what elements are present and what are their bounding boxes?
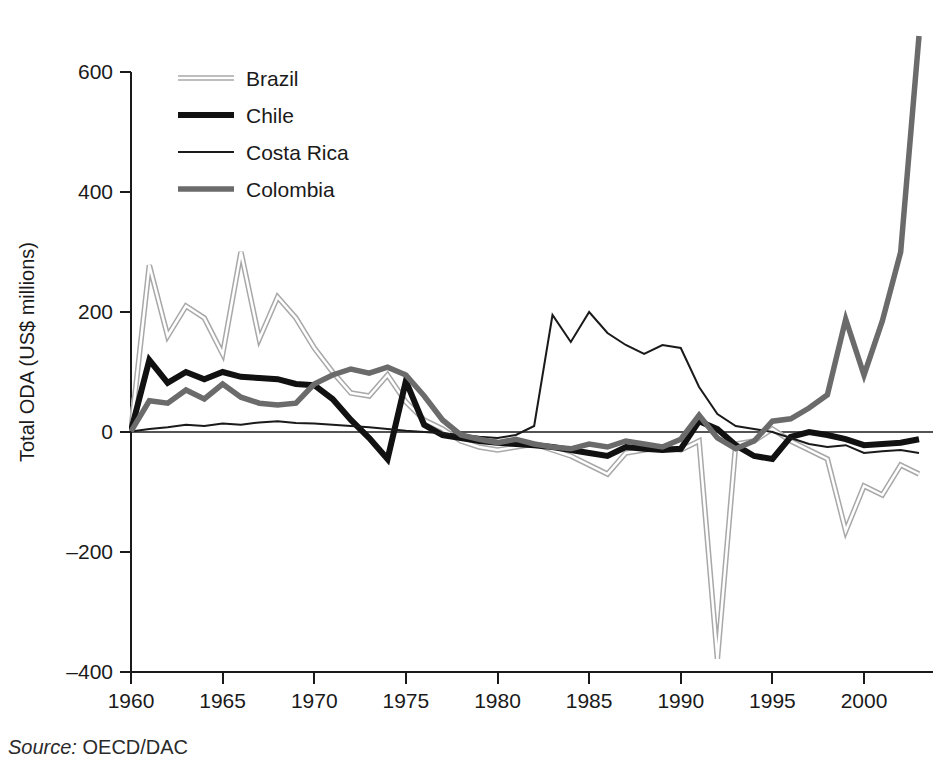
- legend-label-chile: Chile: [246, 104, 294, 127]
- series-line-colombia: [131, 36, 919, 449]
- chart-figure: 6004002000–200–400 196019651970197519801…: [0, 0, 938, 778]
- source-prefix: Source:: [8, 736, 77, 758]
- y-axis-title: Total ODA (US$ millions): [16, 242, 38, 462]
- y-tick-label: 600: [78, 60, 113, 83]
- x-tick-label: 1965: [199, 689, 246, 712]
- source-note: Source: OECD/DAC: [8, 736, 188, 759]
- x-tick-label: 1990: [657, 689, 704, 712]
- x-tick-label: 1995: [749, 689, 796, 712]
- line-chart: 6004002000–200–400 196019651970197519801…: [0, 0, 938, 778]
- y-tick-label: 400: [78, 180, 113, 203]
- x-tick-label: 1960: [108, 689, 155, 712]
- series-line-brazil: [131, 252, 919, 659]
- y-tick-label: 200: [78, 300, 113, 323]
- x-tick-label: 2000: [841, 689, 888, 712]
- x-tick-label: 1980: [474, 689, 521, 712]
- x-axis-ticks: 196019651970197519801985199019952000: [108, 672, 888, 712]
- chart-series-lines: [131, 36, 919, 659]
- y-axis-label: Total ODA (US$ millions): [16, 242, 38, 462]
- series-line-fill-brazil: [131, 252, 919, 659]
- series-line-brazil-core: [131, 252, 919, 659]
- y-tick-label: –400: [66, 660, 113, 683]
- y-tick-label: 0: [101, 420, 113, 443]
- source-value: OECD/DAC: [83, 736, 189, 758]
- legend-label-brazil: Brazil: [246, 67, 299, 90]
- legend-label-costa-rica: Costa Rica: [246, 141, 349, 164]
- legend-label-colombia: Colombia: [246, 178, 335, 201]
- x-tick-label: 1985: [566, 689, 613, 712]
- y-tick-label: –200: [66, 540, 113, 563]
- chart-legend: BrazilChileCosta RicaColombia: [178, 67, 349, 201]
- x-tick-label: 1975: [383, 689, 430, 712]
- y-axis-ticks: 6004002000–200–400: [66, 60, 131, 683]
- x-tick-label: 1970: [291, 689, 338, 712]
